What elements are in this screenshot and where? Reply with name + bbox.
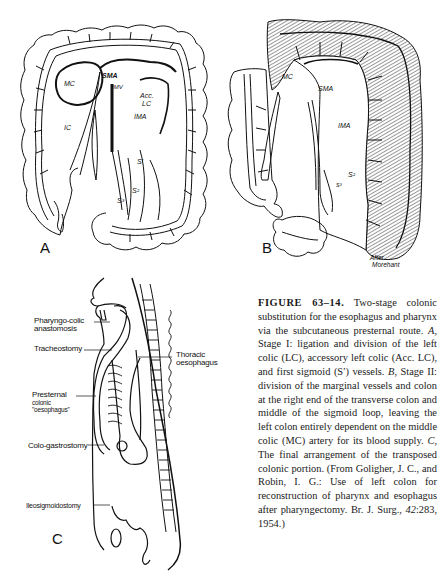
credit-author: Morehant <box>372 262 399 269</box>
label-mc: MC <box>64 80 75 87</box>
label-s3: S³ <box>117 197 124 204</box>
label-tracheostomy: Tracheostomy <box>34 345 82 353</box>
label-sma: SMA <box>318 85 333 92</box>
label-sma: SMA <box>102 72 118 79</box>
label-mc: MC <box>282 73 293 80</box>
label-s2: S² <box>348 171 355 178</box>
caption-text-4: , The final arrangement of the transpose… <box>258 435 437 515</box>
panel-c-sagittal-diagram: Pharyngo-colic anastomosis Tracheostomy … <box>0 270 230 571</box>
label-s1: S′ <box>137 158 143 165</box>
label-ileosigmoidostomy: Ileosigmoidostomy <box>26 502 81 509</box>
panel-b-colon-diagram: MC SMA IMA S² S³ B After Morehant <box>220 0 441 270</box>
label-colo-gastrostomy: Colo-gastrostomy <box>28 442 88 450</box>
panel-a-colon-diagram: MC SMA IMV Acc. LC IMA IC S′ S² S³ A <box>0 0 220 270</box>
label-oesophagus: oesophagus <box>176 359 218 367</box>
label-s2: S² <box>132 187 139 194</box>
colon-stage-1-illustration <box>0 0 220 270</box>
label-acc-lc-1: Acc. <box>140 92 154 99</box>
figure-number: FIGURE 63–14. <box>258 297 344 308</box>
label-ic: IC <box>64 124 71 131</box>
label-acc-lc-2: LC <box>142 100 151 107</box>
panel-letter-c: C <box>52 531 63 546</box>
figure-caption: FIGURE 63–14. Two-stage colonic substitu… <box>258 296 437 531</box>
panel-letter-a: A <box>40 240 50 255</box>
label-anastomosis: anastomosis <box>34 325 77 333</box>
label-ima: IMA <box>338 122 350 129</box>
label-s3: S³ <box>336 183 342 189</box>
caption-volume: 42 <box>406 504 416 515</box>
colon-stage-2-illustration <box>220 0 441 270</box>
label-colonic-oesophagus: "oesophagus" <box>32 407 70 414</box>
caption-text-3: , Stage II: division of the marginal ves… <box>258 366 437 446</box>
panel-letter-b: B <box>262 240 272 255</box>
label-imv: IMV <box>112 84 123 90</box>
label-presternal: Presternal <box>32 391 66 399</box>
label-ima: IMA <box>134 113 146 120</box>
